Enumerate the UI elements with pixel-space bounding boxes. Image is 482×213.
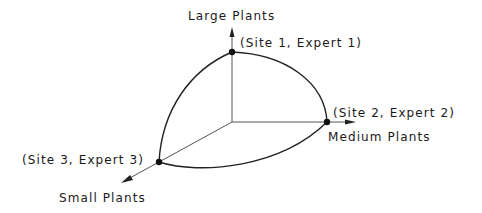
axes: [121, 27, 356, 183]
curve-site3-site2: [159, 122, 327, 168]
diagonal-arrow-icon: [121, 175, 133, 183]
point-label-site1: (Site 1, Expert 1): [240, 36, 362, 50]
axis-label-medium-plants: Medium Plants: [328, 130, 431, 144]
vertical-arrow-icon: [230, 27, 235, 37]
horizontal-arrow-icon: [345, 120, 356, 125]
points: [156, 49, 330, 165]
point-site1: [229, 49, 235, 55]
point-label-site2: (Site 2, Expert 2): [333, 106, 455, 120]
point-site2: [324, 119, 330, 125]
curve-site1-site2: [232, 52, 327, 122]
point-label-site3: (Site 3, Expert 3): [22, 153, 144, 167]
curve-site1-site3: [159, 52, 232, 162]
diagonal-axis: [128, 122, 232, 179]
three-axis-surface-diagram: Large Plants Medium Plants Small Plants …: [0, 0, 482, 213]
axis-label-large-plants: Large Plants: [188, 9, 275, 23]
surface-curves: [159, 52, 327, 168]
axis-label-small-plants: Small Plants: [59, 191, 146, 205]
point-site3: [156, 159, 162, 165]
